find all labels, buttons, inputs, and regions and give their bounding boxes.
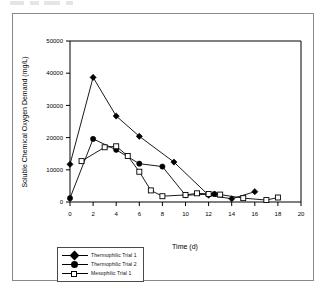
data-point xyxy=(67,161,73,167)
y-axis-title: Soluble Chemical Oxygen Demand (mg/L) xyxy=(21,56,29,187)
y-tick-label: 0 xyxy=(60,199,64,205)
scan-artifact-blot xyxy=(30,1,39,5)
series-line xyxy=(70,139,214,198)
series-group xyxy=(67,74,281,202)
legend-swatch-square-icon xyxy=(62,269,88,278)
data-point xyxy=(90,74,96,80)
x-tick-label: 8 xyxy=(161,211,165,217)
data-point xyxy=(148,188,153,193)
y-axis: 01000020000300004000050000 xyxy=(46,38,70,205)
legend-item-thermophilic-trial-1[interactable]: Thermophilic Trial 1 xyxy=(62,251,137,260)
x-tick-label: 20 xyxy=(298,211,305,217)
data-point xyxy=(195,191,200,196)
data-point xyxy=(218,192,223,197)
data-point xyxy=(79,159,84,164)
x-tick-label: 16 xyxy=(251,211,258,217)
legend-item-mesophilic-trial-1[interactable]: Mesophilic Trial 1 xyxy=(62,269,137,278)
scan-artifact-blot xyxy=(66,1,73,5)
legend-swatch-diamond-icon xyxy=(62,251,88,260)
data-point xyxy=(67,196,72,201)
x-tick-label: 0 xyxy=(68,211,72,217)
scan-artifact xyxy=(0,0,328,11)
series-mesophilic-trial-1 xyxy=(79,144,280,203)
data-point xyxy=(275,195,280,200)
legend-item-label: Mesophilic Trial 1 xyxy=(91,269,131,278)
scan-artifact-blot xyxy=(44,1,60,5)
data-point xyxy=(160,164,165,169)
data-point xyxy=(183,192,188,197)
legend-item-label: Thermophilic Trial 1 xyxy=(91,251,137,260)
data-point xyxy=(241,196,246,201)
y-tick-label: 40000 xyxy=(46,70,63,76)
y-tick-label: 10000 xyxy=(46,167,63,173)
y-tick-label: 50000 xyxy=(46,38,63,44)
line-chart: 01000020000300004000050000 0246810121416… xyxy=(13,14,315,282)
y-tick-label: 20000 xyxy=(46,135,63,141)
x-tick-label: 18 xyxy=(275,211,282,217)
data-point xyxy=(252,189,258,195)
series-line xyxy=(82,146,278,200)
data-point xyxy=(91,136,96,141)
data-point xyxy=(137,169,142,174)
x-tick-label: 10 xyxy=(182,211,189,217)
chart-legend: Thermophilic Trial 1 Thermophilic Trial … xyxy=(57,247,144,282)
data-point xyxy=(137,161,142,166)
data-point xyxy=(160,194,165,199)
x-axis: 02468101214161820 xyxy=(68,202,305,217)
x-tick-label: 14 xyxy=(228,211,235,217)
figure-frame: 01000020000300004000050000 0246810121416… xyxy=(12,13,314,281)
x-tick-label: 2 xyxy=(91,211,95,217)
legend-swatch-circle-icon xyxy=(62,260,88,269)
x-tick-label: 4 xyxy=(115,211,119,217)
chart-area: 01000020000300004000050000 0246810121416… xyxy=(13,14,315,282)
x-tick-label: 6 xyxy=(138,211,142,217)
data-point xyxy=(264,198,269,203)
scan-artifact-blot xyxy=(10,1,24,5)
data-point xyxy=(102,145,107,150)
legend-item-label: Thermophilic Trial 2 xyxy=(91,260,137,269)
plot-frame-box xyxy=(70,41,301,202)
data-point xyxy=(206,191,211,196)
data-point xyxy=(125,153,130,158)
x-axis-title: Time (d) xyxy=(172,243,198,251)
y-tick-label: 30000 xyxy=(46,103,63,109)
legend-item-thermophilic-trial-2[interactable]: Thermophilic Trial 2 xyxy=(62,260,137,269)
x-tick-label: 12 xyxy=(205,211,212,217)
data-point xyxy=(114,144,119,149)
axes-group xyxy=(70,41,301,202)
series-line xyxy=(70,77,255,198)
